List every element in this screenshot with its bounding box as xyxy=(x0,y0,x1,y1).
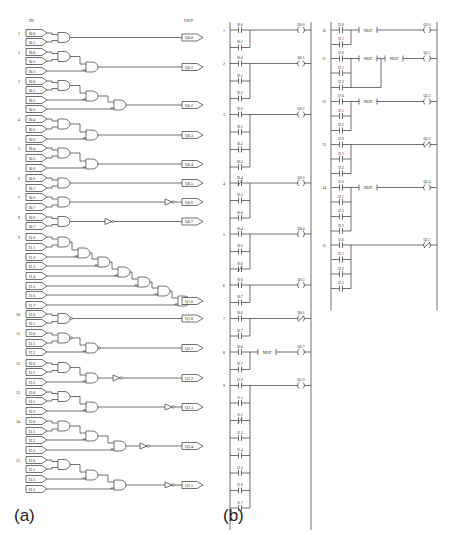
input-tag: I2.3 xyxy=(26,486,47,493)
contact-label: I1.6 xyxy=(237,483,243,487)
not-block-label: NOT xyxy=(364,185,373,190)
contact-label: I2.0 xyxy=(338,180,344,184)
wire xyxy=(424,243,430,248)
output-tag-label: Q2.1 xyxy=(185,346,193,351)
ladder-rung-11: 11I2.0I2.1I2.2NOTNOTQ2.1 xyxy=(322,51,437,91)
input-tag-label: I0.0 xyxy=(29,50,35,55)
wire xyxy=(70,57,86,65)
no-contact: I0.6 xyxy=(236,345,244,356)
and-gate-icon xyxy=(86,91,98,101)
contact-label: I0.2 xyxy=(237,91,243,95)
and-gate-icon xyxy=(58,33,70,43)
rung-number: 13 xyxy=(322,143,326,147)
and-gate-icon xyxy=(58,421,70,431)
input-tag-label: I0.2 xyxy=(29,98,35,103)
output-coil: Q2.1 xyxy=(423,51,430,62)
not-block-label: NOT xyxy=(364,99,373,104)
input-tag-label: I2.2 xyxy=(29,380,35,385)
no-contact: I2.0 xyxy=(337,180,345,191)
input-tag: I1.4 xyxy=(26,273,47,280)
contact-label: I0.7 xyxy=(237,295,243,299)
input-tag: I2.1 xyxy=(26,340,47,347)
wire xyxy=(47,127,58,129)
output-coil: Q2.5 xyxy=(423,238,430,249)
rung-number: 1 xyxy=(18,31,20,36)
output-tag: Q2.3 xyxy=(182,404,203,411)
output-coil: Q0.7 xyxy=(297,345,304,356)
wire xyxy=(47,341,58,343)
wire xyxy=(47,197,58,199)
coil-label: Q2.4 xyxy=(423,180,430,184)
output-coil: Q0.0 xyxy=(297,23,304,34)
output-tag-label: Q0.2 xyxy=(185,103,193,108)
wire xyxy=(98,475,114,482)
no-contact: I1.3 xyxy=(236,431,244,442)
not-block-label: NOT xyxy=(364,56,373,61)
not-block-label: NOT xyxy=(263,350,272,355)
no-contact: I2.2 xyxy=(337,166,345,177)
ladder-rung-8: 8I0.6I0.7NOTQ0.7 xyxy=(223,345,311,373)
input-tag: I0.0 xyxy=(26,30,47,37)
rung-number: 9 xyxy=(223,384,225,388)
coil-label: Q2.1 xyxy=(423,51,430,55)
no-contact: I2.3 xyxy=(337,281,345,292)
wire xyxy=(98,436,114,443)
no-contact: I0.1 xyxy=(236,74,244,85)
and-gate-icon xyxy=(86,470,98,480)
input-tag-label: I0.7 xyxy=(29,224,35,229)
contact-label: I2.2 xyxy=(338,267,344,271)
no-contact: I0.3 xyxy=(236,160,244,171)
inverter-bubble-icon xyxy=(172,406,174,408)
input-tag: I0.0 xyxy=(26,49,47,56)
input-tag-label: I1.0 xyxy=(29,235,35,240)
coil-left-arc xyxy=(298,282,299,288)
logic-gate-diagram: INOUT1I0.0I0.1Q0.02I0.0I0.1I0.2Q0.13I0.0… xyxy=(16,18,203,493)
input-tag: I2.0 xyxy=(26,330,47,337)
and-gate-icon xyxy=(86,431,98,441)
input-tag-label: I0.4 xyxy=(29,146,35,151)
no-contact: I2.2 xyxy=(337,123,345,134)
not-gate-icon xyxy=(165,199,172,205)
output-coil: Q0.6 xyxy=(297,311,304,322)
input-tag: I0.7 xyxy=(26,204,47,211)
output-tag-label: Q0.0 xyxy=(185,35,193,40)
input-tag-label: I2.2 xyxy=(29,409,35,414)
and-gate-icon xyxy=(58,217,70,227)
no-contact: I1.6 xyxy=(236,483,244,494)
coil-label: Q0.2 xyxy=(297,107,304,111)
output-tag: Q2.5 xyxy=(182,482,203,489)
inverter-bubble-icon xyxy=(172,484,174,486)
coil-left-arc xyxy=(298,180,299,186)
figure-canvas: INOUT1I0.0I0.1Q0.02I0.0I0.1I0.2Q0.13I0.0… xyxy=(0,0,457,535)
and-gate-icon xyxy=(138,277,150,287)
ladder-rung-3: 3I0.0I0.1I0.2I0.3Q0.2 xyxy=(223,107,311,170)
wire xyxy=(70,242,78,250)
not-block: NOT xyxy=(258,349,276,355)
rung-number: 6 xyxy=(223,284,225,288)
and-gate-icon xyxy=(58,392,70,402)
no-contact: I0.2 xyxy=(236,91,244,102)
no-contact: I0.7 xyxy=(236,295,244,306)
output-tag: Q2.2 xyxy=(182,375,203,382)
wire xyxy=(47,178,58,180)
no-contact: I2.1 xyxy=(337,195,345,206)
output-tag-label: Q0.7 xyxy=(185,219,193,224)
rung-number: 5 xyxy=(223,233,225,237)
input-tag-label: I1.5 xyxy=(29,284,35,289)
output-tag-label: Q1.0 xyxy=(185,316,193,321)
rung-number: 15 xyxy=(16,458,20,463)
no-contact: I0.1 xyxy=(236,125,244,136)
output-coil: Q1.0 xyxy=(297,378,304,389)
inverter-bubble-icon xyxy=(70,337,72,339)
contact-label: I2.1 xyxy=(338,195,344,199)
input-tag-label: I0.6 xyxy=(29,137,35,142)
no-contact: I0.0 xyxy=(236,107,244,118)
contact-label: I2.1 xyxy=(338,109,344,113)
contact-label: I2.1 xyxy=(338,66,344,70)
input-tag-label: I1.4 xyxy=(29,274,35,279)
input-tag: I2.2 xyxy=(26,408,47,415)
contact-label: I2.2 xyxy=(338,209,344,213)
and-gate-icon xyxy=(86,62,98,72)
ladder-rung-9: 9I1.0I1.1I1.2I1.3I1.4I1.5I1.6I1.7Q1.0 xyxy=(223,378,311,511)
coil-left-arc xyxy=(298,27,299,33)
